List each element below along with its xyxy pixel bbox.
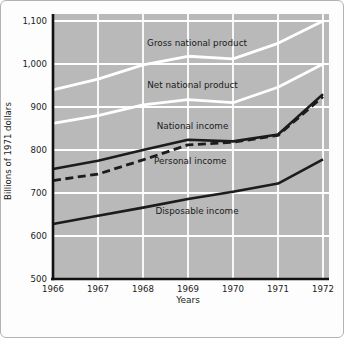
x-tick-label-1969: 1969 [177, 284, 199, 294]
x-tick-label-1972: 1972 [312, 284, 334, 294]
series-label-national-income: National income [157, 121, 229, 131]
x-tick-label-1970: 1970 [222, 284, 244, 294]
x-tick-label-1967: 1967 [87, 284, 109, 294]
series-label-personal-income: Personal income [154, 156, 226, 166]
y-axis-title: Billions of 1971 dollars [3, 102, 13, 200]
series-label-gross-national-product: Gross national product [147, 38, 247, 48]
series-label-disposable-income: Disposable income [155, 206, 238, 216]
y-tick-label-500: 500 [31, 274, 47, 284]
x-tick-label-1968: 1968 [132, 284, 154, 294]
x-tick-label-1971: 1971 [267, 284, 289, 294]
y-tick-label-800: 800 [31, 145, 47, 155]
chart-card: 1,1001,000900800700600500196619671968196… [0, 0, 344, 338]
national-income-line-chart: 1,1001,000900800700600500196619671968196… [1, 1, 344, 338]
plot-area [53, 14, 329, 279]
y-tick-label-900: 900 [31, 102, 47, 112]
series-label-net-national-product: Net national product [147, 80, 238, 90]
y-tick-label-1-000: 1,000 [22, 59, 47, 69]
x-tick-label-1966: 1966 [42, 284, 64, 294]
y-tick-label-1-100: 1,100 [22, 16, 47, 26]
x-axis-title: Years [175, 295, 200, 305]
y-tick-label-700: 700 [31, 188, 47, 198]
y-tick-label-600: 600 [31, 231, 47, 241]
